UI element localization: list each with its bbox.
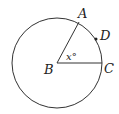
label-b: B xyxy=(43,62,54,77)
point-d-dot xyxy=(95,38,98,41)
label-d: D xyxy=(99,28,111,43)
angle-label: x° xyxy=(66,51,77,62)
label-a: A xyxy=(77,6,87,21)
circle-diagram: A B C D x° xyxy=(0,0,119,114)
label-c: C xyxy=(104,61,114,76)
